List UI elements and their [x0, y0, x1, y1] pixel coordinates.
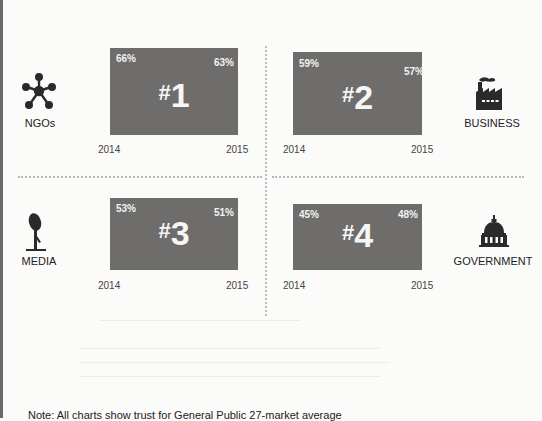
year-end: 2015	[226, 144, 248, 155]
network-icon	[22, 73, 56, 109]
pct-2015: 57%	[404, 66, 424, 77]
microphone-icon	[24, 212, 50, 252]
rank-box-1: 66% 63% #1	[110, 48, 238, 135]
rank-number: #2	[293, 78, 422, 117]
rank-number: #1	[110, 76, 238, 115]
rank-number: #4	[293, 216, 422, 255]
page-left-border	[0, 0, 3, 418]
year-end: 2015	[411, 144, 433, 155]
factory-icon	[474, 74, 504, 110]
pct-2014: 66%	[116, 53, 136, 64]
year-end: 2015	[411, 280, 433, 291]
bleed-line	[80, 376, 380, 377]
year-start: 2014	[98, 144, 120, 155]
category-label: BUSINESS	[462, 117, 522, 129]
horizontal-divider-right	[272, 176, 524, 178]
rank-number: #3	[110, 214, 238, 253]
horizontal-divider-left	[18, 176, 262, 178]
bleed-line	[80, 348, 380, 349]
rank-box-3: 53% 51% #3	[110, 198, 238, 270]
category-label: NGOs	[20, 117, 60, 129]
year-start: 2014	[283, 280, 305, 291]
category-label: MEDIA	[18, 255, 60, 267]
pct-2014: 53%	[116, 203, 136, 214]
year-end: 2015	[226, 280, 248, 291]
pct-2015: 63%	[214, 57, 234, 68]
rank-box-2: 59% 57% #2	[293, 52, 422, 135]
rank-box-4: 45% 48% #4	[293, 204, 422, 270]
category-label: GOVERNMENT	[452, 255, 534, 267]
vertical-divider	[265, 46, 267, 316]
pct-2014: 59%	[299, 58, 319, 69]
year-start: 2014	[283, 144, 305, 155]
footer-note: Note: All charts show trust for General …	[28, 409, 342, 421]
year-start: 2014	[98, 280, 120, 291]
bleed-line	[80, 362, 390, 363]
bleed-line	[100, 320, 300, 321]
capitol-icon	[478, 215, 510, 247]
